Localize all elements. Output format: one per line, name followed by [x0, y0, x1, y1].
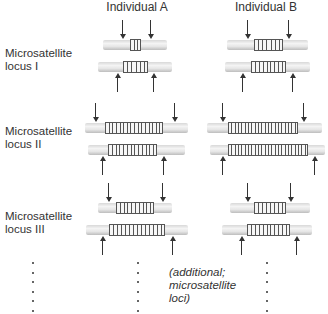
- arrow-down-icon: [162, 183, 163, 198]
- arrow-up-icon: [222, 160, 223, 175]
- ellipsis-dot: [32, 300, 34, 302]
- arrow-up-icon: [242, 77, 243, 92]
- arrow-up-icon: [296, 240, 297, 255]
- arrow-down-icon: [288, 20, 289, 35]
- locus-label-1-line1: Microsatellite: [5, 47, 72, 60]
- repeat-region: [108, 144, 157, 156]
- arrow-up-icon: [102, 160, 103, 175]
- arrow-up-icon: [172, 240, 173, 255]
- ellipsis-dot: [266, 281, 268, 283]
- locus-label-1: Microsatellite locus I: [5, 47, 72, 73]
- dna-segment-locus3-a: [98, 203, 172, 213]
- dna-segment-locus2-a: [88, 145, 185, 155]
- ellipsis-dot: [137, 310, 139, 312]
- arrow-up-icon: [153, 77, 154, 92]
- arrow-down-icon: [247, 183, 248, 198]
- dna-segment-locus1-b: [225, 62, 310, 72]
- ellipsis-dot: [137, 300, 139, 302]
- repeat-region: [254, 39, 283, 51]
- repeat-region: [123, 61, 148, 73]
- arrow-down-icon: [290, 183, 291, 198]
- locus-label-2: Microsatellite locus II: [5, 125, 72, 151]
- header-individual-a: Individual A: [106, 0, 167, 14]
- additional-loci-note: (additional; microsatellite loci): [169, 266, 236, 305]
- arrow-down-icon: [95, 103, 96, 118]
- ellipsis-dot: [32, 262, 34, 264]
- diagram: Individual A Individual B Microsatellite…: [0, 0, 328, 314]
- ellipsis-dot: [266, 262, 268, 264]
- repeat-region: [247, 224, 290, 236]
- dna-segment-locus2-b: [210, 145, 325, 155]
- note-line3: loci): [169, 292, 236, 305]
- ellipsis-dot: [266, 272, 268, 274]
- dna-segment-locus1-a: [103, 40, 167, 50]
- repeat-region: [254, 202, 286, 214]
- repeat-region: [228, 122, 298, 134]
- ellipsis-dot: [32, 272, 34, 274]
- dna-segment-locus2-a: [85, 123, 188, 133]
- repeat-region: [251, 61, 286, 73]
- repeat-region: [228, 144, 308, 156]
- repeat-region: [116, 202, 154, 214]
- ellipsis-dot: [266, 291, 268, 293]
- dna-segment-locus3-b: [222, 225, 312, 235]
- arrow-up-icon: [241, 240, 242, 255]
- ellipsis-dot: [137, 281, 139, 283]
- arrow-down-icon: [174, 103, 175, 118]
- repeat-region: [109, 224, 165, 236]
- dna-segment-locus2-b: [207, 123, 322, 133]
- ellipsis-dot: [137, 272, 139, 274]
- dna-segment-locus1-b: [227, 40, 308, 50]
- dna-segment-locus1-a: [98, 62, 172, 72]
- locus-label-3-line2: locus III: [5, 223, 72, 236]
- arrow-down-icon: [108, 183, 109, 198]
- arrow-down-icon: [247, 20, 248, 35]
- ellipsis-dot: [266, 310, 268, 312]
- ellipsis-dot: [32, 310, 34, 312]
- header-individual-b: Individual B: [235, 0, 297, 14]
- arrow-up-icon: [102, 240, 103, 255]
- arrow-down-icon: [150, 20, 151, 35]
- arrow-down-icon: [122, 20, 123, 35]
- arrow-down-icon: [303, 103, 304, 118]
- note-line1: (additional;: [169, 266, 236, 279]
- locus-label-2-line2: locus II: [5, 138, 72, 151]
- ellipsis-dot: [137, 262, 139, 264]
- locus-label-3-line1: Microsatellite: [5, 210, 72, 223]
- locus-label-3: Microsatellite locus III: [5, 210, 72, 236]
- ellipsis-dot: [266, 300, 268, 302]
- locus-label-2-line1: Microsatellite: [5, 125, 72, 138]
- repeat-region: [105, 122, 163, 134]
- dna-segment-locus3-a: [86, 225, 188, 235]
- arrow-up-icon: [163, 160, 164, 175]
- repeat-region: [130, 39, 141, 51]
- note-line2: microsatellite: [169, 279, 236, 292]
- arrow-down-icon: [222, 103, 223, 118]
- arrow-up-icon: [292, 77, 293, 92]
- ellipsis-dot: [32, 291, 34, 293]
- arrow-up-icon: [314, 160, 315, 175]
- ellipsis-dot: [32, 281, 34, 283]
- arrow-up-icon: [117, 77, 118, 92]
- dna-segment-locus3-b: [230, 203, 310, 213]
- ellipsis-dot: [137, 291, 139, 293]
- locus-label-1-line2: locus I: [5, 60, 72, 73]
